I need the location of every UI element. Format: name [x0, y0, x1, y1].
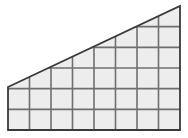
gridded-trapezoid-figure: [0, 0, 188, 138]
figure-container: [0, 0, 188, 138]
